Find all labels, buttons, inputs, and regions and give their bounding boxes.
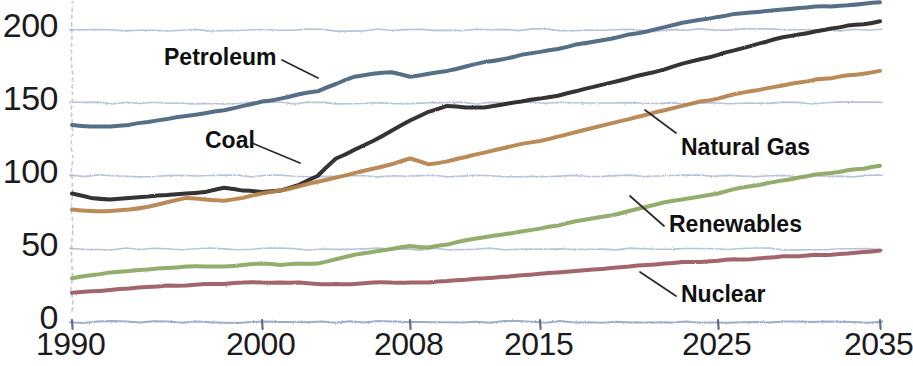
- series-label-coal: Coal: [205, 127, 255, 154]
- leader-line-4: [640, 272, 676, 296]
- series-label-natural-gas: Natural Gas: [681, 134, 810, 161]
- y-tick-100: 100: [0, 152, 58, 191]
- leader-line-1: [252, 143, 300, 163]
- x-tick-1990: 1990: [36, 326, 105, 363]
- y-tick-150: 150: [0, 79, 58, 118]
- x-tick-2025: 2025: [682, 326, 751, 363]
- x-tick-2015: 2015: [504, 326, 573, 363]
- leader-line-2: [645, 110, 676, 133]
- x-tick-2000: 2000: [226, 326, 295, 363]
- series-label-petroleum: Petroleum: [164, 44, 276, 71]
- y-tick-50: 50: [0, 225, 58, 264]
- series-label-renewables: Renewables: [669, 211, 802, 238]
- axis-lines: [71, 2, 73, 314]
- y-tick-200: 200: [0, 6, 58, 45]
- leader-line-0: [282, 60, 318, 78]
- x-tick-2035: 2035: [844, 326, 913, 363]
- x-tick-2008: 2008: [374, 326, 443, 363]
- series-label-nuclear: Nuclear: [681, 281, 765, 308]
